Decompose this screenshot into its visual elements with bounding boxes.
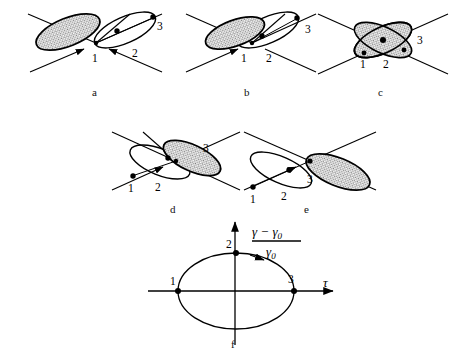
panel-e-shaded-lobe <box>301 146 375 197</box>
panel-d-caption: d <box>170 203 176 215</box>
panel-d-label-1: 1 <box>128 182 134 194</box>
plot-point-1-dot <box>175 288 181 294</box>
panel-d-point-2-dot <box>165 155 170 160</box>
panel-c-label-1: 1 <box>360 58 366 70</box>
panel-a-caption: a <box>92 86 97 98</box>
panel-c-point-1-dot <box>362 51 367 56</box>
panel-a-point-3-dot <box>150 14 155 19</box>
panel-a-label-2: 2 <box>132 47 138 59</box>
plot-label-3: 3 <box>288 273 294 285</box>
panel-c-point-3-dot <box>402 48 407 53</box>
plot-point-3-dot <box>291 288 297 294</box>
panel-a-label-3: 3 <box>157 20 163 32</box>
panel-d-origin-dot <box>174 159 178 163</box>
plot-point-2-dot <box>233 250 239 256</box>
panel-d: 1 2 3 d <box>112 132 240 215</box>
panel-b-label-3: 3 <box>305 23 311 35</box>
panel-f-caption: f <box>231 338 235 350</box>
panel-a: 1 2 3 a <box>28 5 163 98</box>
panel-b-shaded-lobe <box>201 10 268 56</box>
panel-a-point-2-dot <box>114 28 119 33</box>
panel-b-point-3-dot <box>294 15 299 20</box>
panel-d-point-1-dot <box>130 173 135 178</box>
panel-e-label-3: 3 <box>307 173 313 185</box>
panel-c-label-2: 2 <box>383 58 389 70</box>
panel-e-point-2-dot <box>286 167 291 172</box>
panel-c-caption: c <box>378 86 383 98</box>
panel-b-label-2: 2 <box>266 52 272 64</box>
panel-b: 1 2 3 b <box>186 5 316 98</box>
panel-e-label-2: 2 <box>281 190 287 202</box>
panel-e-open-lobe <box>246 145 317 196</box>
panel-e-caption: e <box>304 203 309 215</box>
plot-label-2: 2 <box>226 238 232 250</box>
figure-svg: 1 2 3 a 1 2 3 b <box>0 0 474 354</box>
panel-b-caption: b <box>244 86 250 98</box>
panel-b-label-1: 1 <box>241 52 247 64</box>
plot-x-axis-label: τ <box>323 275 329 290</box>
panel-a-origin-dot <box>94 41 98 45</box>
panel-e-label-1: 1 <box>250 193 256 205</box>
panel-d-label-3: 3 <box>203 142 209 154</box>
panel-c-center-dot <box>380 37 386 43</box>
panel-b-point-2-dot <box>259 33 264 38</box>
panel-a-shaded-lobe <box>31 6 105 57</box>
panel-e-origin-dot <box>307 158 312 163</box>
panel-e: 1 2 3 e <box>244 132 376 215</box>
figure-root: 1 2 3 a 1 2 3 b <box>0 0 474 354</box>
panel-f-plot: 1 2 3 τ γ − γ0 γ0 f <box>148 222 333 350</box>
panel-c: 1 2 3 c <box>318 14 448 98</box>
panel-e-point-1-dot <box>250 184 255 189</box>
panel-b-origin-dot <box>250 41 254 45</box>
plot-label-1: 1 <box>170 275 176 287</box>
panel-c-label-3: 3 <box>417 34 423 46</box>
panel-d-label-2: 2 <box>155 181 161 193</box>
y-axis-denominator: γ0 <box>266 244 276 261</box>
panel-a-label-1: 1 <box>92 52 98 64</box>
y-axis-numerator: γ − γ0 <box>252 224 283 241</box>
